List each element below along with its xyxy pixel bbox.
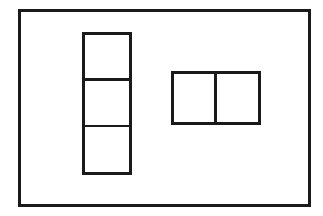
vertical-stack <box>82 32 132 175</box>
vertical-stack-divider-2 <box>82 125 132 127</box>
horizontal-pair-divider <box>214 71 217 125</box>
outer-frame <box>18 9 311 207</box>
vertical-stack-divider-1 <box>82 78 132 81</box>
